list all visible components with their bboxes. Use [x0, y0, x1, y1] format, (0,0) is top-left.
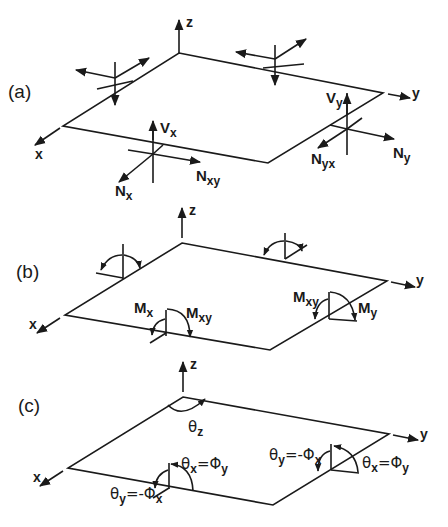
label-nx: Nx [115, 182, 133, 203]
label-mxy-front: Mxy [186, 304, 212, 325]
label-vx: Vx [160, 119, 177, 140]
moment-right [315, 292, 357, 321]
y-axis-arrow [391, 282, 415, 287]
rotation-right [318, 444, 359, 473]
label-nxy: Nxy [196, 167, 221, 188]
x-axis-label: x [35, 146, 43, 162]
panel-b: (b) z x y Mx Mxy [16, 202, 424, 350]
z-axis-label: z [190, 356, 197, 372]
force-cross-back-right [236, 39, 306, 85]
x-axis-arrow [35, 128, 60, 145]
plate-b [65, 243, 387, 350]
plate-a [63, 53, 383, 163]
label-nyx: Nyx [311, 150, 336, 171]
panel-label-b: (b) [16, 261, 39, 282]
label-thx-phiy-front: θx=Φy [181, 455, 228, 476]
plate-diagram: (a) z x y Vx Nx [0, 0, 448, 527]
panel-a: (a) z x y Vx Nx [8, 14, 420, 203]
label-thy-phix-front: θy=-Φx [110, 485, 163, 506]
z-axis-label: z [189, 202, 196, 218]
label-ny: Ny [393, 144, 411, 165]
x-axis-label: x [29, 316, 37, 332]
y-axis-label: y [420, 426, 428, 442]
panel-c: (c) z x y θz θx=Φy θy=-Φx θy=-Φx θx=Φy [18, 356, 428, 506]
x-axis-arrow [40, 471, 63, 486]
diagram-canvas: (a) z x y Vx Nx [0, 0, 448, 527]
y-axis-label: y [416, 272, 424, 288]
label-thy-phix-right: θy=-Φx [269, 446, 322, 467]
rotation-arc-theta-z [168, 399, 205, 411]
panel-label-a: (a) [8, 81, 31, 102]
label-mxy-right: Mxy [293, 288, 319, 309]
x-axis-label: x [33, 469, 41, 485]
x-axis-arrow [37, 318, 60, 333]
moment-front-left [150, 309, 190, 343]
label-theta-z: θz [188, 418, 203, 439]
label-mx: Mx [134, 299, 154, 320]
moment-back-right [264, 233, 307, 259]
y-axis-label: y [412, 85, 420, 101]
force-cross-back-left [76, 58, 149, 105]
panel-label-c: (c) [18, 395, 40, 416]
label-thx-phiy-right: θx=Φy [362, 454, 409, 475]
y-axis-arrow [393, 435, 418, 440]
z-axis-label: z [186, 14, 193, 30]
label-vy: Vy [326, 89, 343, 110]
label-my: My [358, 299, 378, 320]
y-axis-arrow [388, 94, 410, 98]
